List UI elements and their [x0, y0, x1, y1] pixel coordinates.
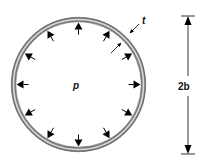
pressure-arrow — [103, 31, 110, 41]
pressure-vessel-diagram: p t 2b — [0, 0, 208, 168]
pressure-arrow — [48, 128, 55, 138]
diameter-label: 2b — [178, 81, 190, 92]
pressure-arrow — [48, 31, 55, 41]
pressure-arrow — [122, 109, 132, 116]
pressure-arrow — [103, 128, 110, 138]
pressure-arrow — [25, 109, 35, 116]
pressure-arrow — [17, 81, 29, 89]
pressure-arrow — [75, 135, 83, 147]
pressure-arrow — [25, 54, 35, 61]
pressure-arrow — [122, 54, 132, 61]
pressure-arrow — [75, 23, 83, 35]
pressure-arrow — [129, 81, 141, 89]
pressure-label: p — [72, 80, 79, 91]
thickness-label: t — [142, 15, 146, 26]
